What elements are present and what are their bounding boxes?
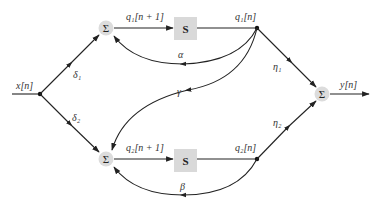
output-branch: y[n] [330,79,369,94]
gain-eta2-label: η₂ [273,117,282,128]
q1-next-label: q₁[n + 1] [126,11,164,22]
input-label: x[n] [15,80,33,91]
summer-bottom: Σ [99,152,114,167]
delta1-branch: δ₁ [40,35,99,94]
delay-bottom-label: S [182,155,188,167]
eta1-branch: η₁ [257,28,316,87]
gain-delta1-label: δ₁ [73,69,81,80]
gain-beta-label: β [179,181,185,192]
bottom-forward-path: q₂[n + 1] S q₂[n] [114,142,259,172]
summer-output: Σ [315,87,330,102]
q2-next-label: q₂[n + 1] [126,142,164,153]
eta2-branch: η₂ [257,101,316,159]
q2-label: q₂[n] [235,142,256,153]
summer-bottom-symbol: Σ [103,153,109,165]
input-branch: x[n] [12,80,42,96]
gain-delta2-label: δ₂ [72,112,81,123]
summer-output-symbol: Σ [319,88,325,100]
block-diagram: x[n] δ₁ δ₂ Σ Σ q₁[n + 1] S q₁[n] q₂[n + … [0,0,381,209]
gamma-cross: γ [112,28,257,150]
gain-alpha-label: α [178,49,184,60]
summer-top: Σ [99,21,114,36]
delay-top-label: S [182,23,188,35]
output-label: y[n] [339,79,357,90]
q1-label: q₁[n] [235,11,256,22]
top-forward-path: q₁[n + 1] S q₁[n] [114,11,259,40]
summer-top-symbol: Σ [103,22,109,34]
gain-eta1-label: η₁ [273,61,281,72]
delta2-branch: δ₂ [40,94,99,152]
